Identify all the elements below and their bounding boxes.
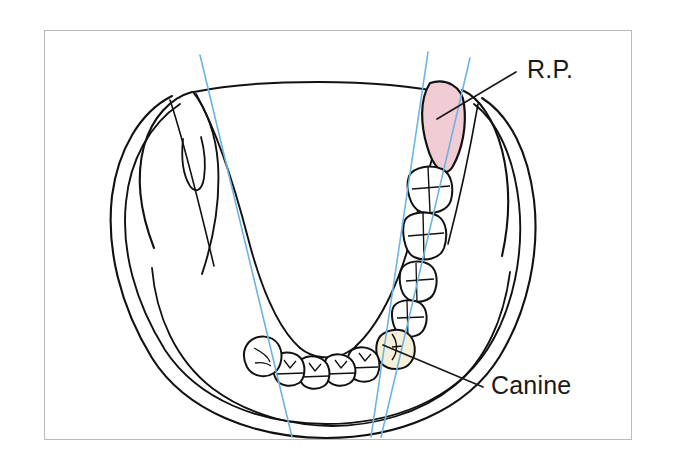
mandibular-arch-diagram: R.P. Canine (0, 0, 674, 465)
canine-label: Canine (491, 371, 571, 399)
retromolar-pad-region (422, 82, 465, 173)
teeth-right-posterior (376, 167, 452, 369)
tooth-molar-1 (408, 167, 453, 213)
mylohyoid-accent-left (170, 100, 214, 266)
left-reference-line (200, 55, 292, 437)
teeth-anterior (244, 337, 380, 389)
retromolar-pad-shape (422, 82, 465, 173)
figure-root: R.P. Canine (0, 0, 674, 465)
lingual-arch-contour (194, 82, 450, 94)
lingual-inner-sweep-left (196, 94, 300, 348)
rp-label: R.P. (527, 55, 573, 83)
left-coronoid-notch (193, 92, 218, 274)
